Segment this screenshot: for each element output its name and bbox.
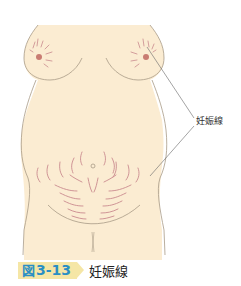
figure-title: 妊娠線 [89, 261, 128, 280]
figure-caption: 図 3-13 妊娠線 [18, 261, 128, 279]
figure-number: 3-13 [36, 262, 71, 279]
torso-body [21, 25, 164, 260]
annotation-label-striae: 妊娠線 [196, 114, 223, 127]
figure-number-tag: 図 3-13 [18, 262, 77, 279]
striae-gravidarum-illustration [0, 0, 241, 260]
right-nipple [143, 54, 149, 60]
figure-prefix: 図 [22, 262, 35, 279]
left-nipple [36, 54, 42, 60]
